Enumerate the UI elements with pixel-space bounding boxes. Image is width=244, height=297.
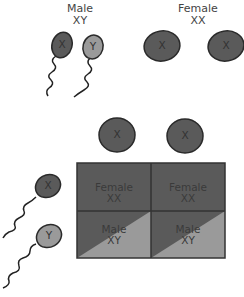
- male-gamete-x-label: X: [56, 39, 68, 50]
- cell-genotype: XY: [77, 235, 151, 246]
- punnett-diagram: [0, 0, 244, 297]
- cell-0-0: Female XX: [77, 182, 151, 204]
- female-gamete-x-label: X: [220, 40, 232, 51]
- cell-genotype: XX: [151, 193, 225, 204]
- column-gamete-x-label: X: [111, 129, 123, 140]
- female-gamete-x-label: X: [156, 40, 168, 51]
- row-gamete-x-label: X: [42, 180, 54, 191]
- cell-1-0: Male XY: [77, 224, 151, 246]
- male-gamete-y-label: Y: [87, 41, 99, 52]
- column-gamete-x-label: X: [179, 130, 191, 141]
- cell-genotype: XY: [151, 235, 225, 246]
- row-gamete-y-label: Y: [43, 230, 55, 241]
- cell-1-1: Male XY: [151, 224, 225, 246]
- cell-genotype: XX: [77, 193, 151, 204]
- cell-0-1: Female XX: [151, 182, 225, 204]
